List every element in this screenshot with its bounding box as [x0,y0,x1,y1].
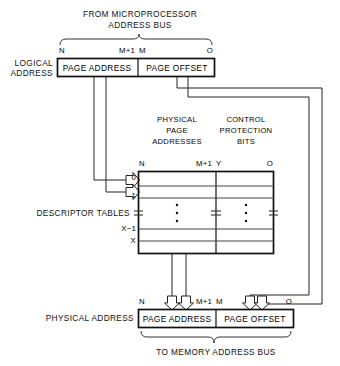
top-title-line1: FROM MICROPROCESSOR [83,9,197,19]
physical-po-arrow-2 [255,296,270,310]
bottom-brace [141,331,291,343]
ellipsis-dot-left-1 [176,204,178,206]
table-header-right-line3: BITS [237,137,255,146]
logical-address-label-line1: LOGICAL [15,58,53,68]
logical-page-offset-field: PAGE OFFSET [146,63,207,73]
ellipsis-dot-right-2 [245,212,247,214]
table-header-left-line2: PAGE [166,126,188,135]
physical-bit-left: N [139,297,145,306]
table-header-right-line2: PROTECTION [220,126,273,135]
ellipsis-dot-left-2 [176,212,178,214]
table-bit-left: N [139,159,145,168]
logical-address-label-line2: ADDRESS [10,68,53,78]
logical-bit-mid-high: M+1 [119,46,135,55]
table-header-right-line1: CONTROL [226,115,265,124]
physical-pa-arrow-1 [165,296,180,310]
logical-bit-left: N [59,46,65,55]
ellipsis-dot-left-3 [176,220,178,222]
physical-address-label: PHYSICAL ADDRESS [46,313,134,323]
wire-logical-po-1 [177,77,322,304]
memory-paging-diagram: FROM MICROPROCESSOR ADDRESS BUS LOGICAL … [0,0,340,366]
logical-bit-right: O [207,46,213,55]
physical-page-offset-field: PAGE OFFSET [224,314,285,324]
table-row-index-x-minus-1: X−1 [121,224,136,233]
bottom-title: TO MEMORY ADDRESS BUS [156,347,276,357]
physical-pa-arrow-2 [179,296,194,310]
top-title-line2: ADDRESS BUS [108,20,171,30]
wire-logical-pa-1 [94,77,126,180]
ellipsis-dot-right-1 [245,204,247,206]
table-header-left-line1: PHYSICAL [157,115,197,124]
table-row-index-x: X [131,236,137,245]
logical-page-address-field: PAGE ADDRESS [63,63,132,73]
wire-logical-pa-2 [106,77,126,192]
ellipsis-dot-right-3 [245,220,247,222]
physical-bit-mid-high: M+1 [196,297,212,306]
physical-page-address-field: PAGE ADDRESS [143,314,212,324]
logical-bit-mid-low: M [139,46,146,55]
table-bit-right: O [267,159,273,168]
descriptor-tables-label: DESCRIPTOR TABLES [36,208,130,218]
top-brace [60,34,212,45]
table-row-index-1: 1 [131,191,136,200]
table-header-left-line3: ADDRESSES [152,137,202,146]
table-row-index-0: 0 [131,173,136,182]
table-bit-mid-low: Y [216,159,222,168]
physical-bit-mid-low: M [216,297,223,306]
physical-bit-right: O [286,297,292,306]
table-bit-mid-high: M+1 [196,159,212,168]
diagram-canvas: FROM MICROPROCESSOR ADDRESS BUS LOGICAL … [0,0,340,366]
